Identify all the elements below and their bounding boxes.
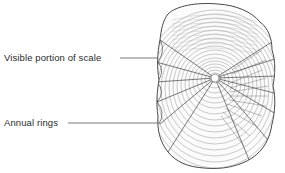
fish-scale-illustration xyxy=(0,0,285,173)
scale-focus xyxy=(211,74,219,82)
